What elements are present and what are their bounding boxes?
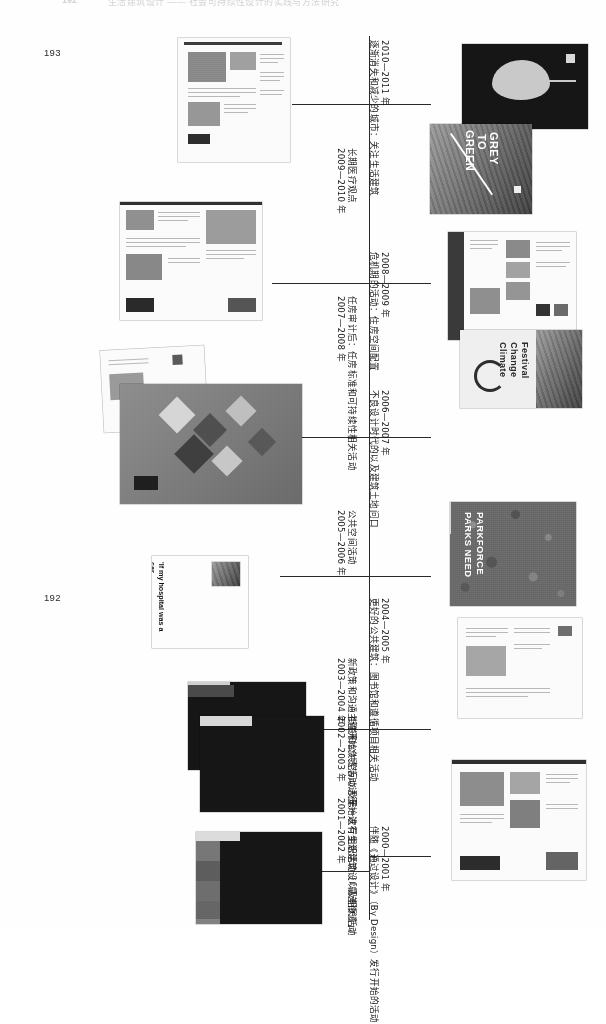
climate-caption-line3: Festival xyxy=(520,342,530,379)
timeline-tick-2009 xyxy=(292,104,370,105)
timeline-label-2005: 公共空间活动 2005—2006 年 xyxy=(336,510,357,576)
parks-need-parkforce-poster: PARKS NEED PARKFORCE xyxy=(450,502,576,606)
dark-cover-2002-front xyxy=(200,716,324,812)
transit-van-quote-text: 'If my hospital was a car, I think it wo… xyxy=(152,562,166,644)
timeline-tick-2007 xyxy=(272,283,370,284)
running-head: 192 生活建筑设计 —— 社会可持续性设计的实践与方法研究 xyxy=(0,0,606,11)
timeline-label-2009: 长期医疗观点 2009—2010 年 xyxy=(336,148,357,214)
transit-van-quote-card: 'If my hospital was a car, I think it wo… xyxy=(152,556,248,648)
report-spread-2010 xyxy=(178,38,290,162)
timeline-label-2010: 2010—2011 年 逐渐消失和减少的城市：关注生活建筑 xyxy=(369,40,390,196)
timeline-label-2006: 2006—2007 年 不良设计时代的以及建筑土地问口 xyxy=(369,390,390,528)
timeline-label-2004: 2004—2005 年 更好的公共建筑：图书馆和遵循项目相关活动 xyxy=(369,598,390,782)
timeline-tick-2004 xyxy=(369,576,431,577)
grey-to-green-caption-line3: GREEN xyxy=(464,130,476,171)
timeline-label-2007: 任房审计后：任房标准和可持续性相关活动 2007—2008 年 xyxy=(336,296,357,471)
grey-to-green-poster: GREY TO GREEN xyxy=(430,124,532,214)
climate-change-festival-poster: Climate Change Festival xyxy=(460,330,582,408)
folio-page-number-192: 192 xyxy=(44,592,61,603)
timeline-label-2001: 开始进行生活建筑设以及相关活动 2001—2002 年 xyxy=(336,798,357,936)
leaflet-spread-2008 xyxy=(448,232,576,340)
grey-to-green-caption-line1: GREY xyxy=(488,132,500,165)
climate-caption-line1: Climate xyxy=(498,342,508,377)
parkforce-caption-line1: PARKS NEED xyxy=(463,512,474,578)
book-group-2001 xyxy=(196,832,322,924)
report-spread-2009 xyxy=(120,202,262,320)
timeline-label-2008: 2008—2009 年 危机期的活动：住房空间配置 xyxy=(369,252,390,372)
grey-to-green-caption-line2: TO xyxy=(476,134,488,150)
timeline-label-2000: 2000—2001 年 伴随《通过设计》（By Design）发行开始的活动 xyxy=(369,826,390,1024)
parkforce-caption-line2: PARKFORCE xyxy=(475,512,486,575)
running-head-text: 生活建筑设计 —— 社会可持续性设计的实践与方法研究 xyxy=(108,0,339,8)
report-spread-2004 xyxy=(458,618,582,718)
design-guide-spread-2000 xyxy=(452,760,586,880)
folio-page-number-193: 193 xyxy=(44,47,61,58)
running-head-number: 192 xyxy=(62,0,77,5)
design-review-cover xyxy=(120,384,302,504)
leaf-cover xyxy=(462,44,588,129)
climate-caption-line2: Change xyxy=(509,342,519,377)
